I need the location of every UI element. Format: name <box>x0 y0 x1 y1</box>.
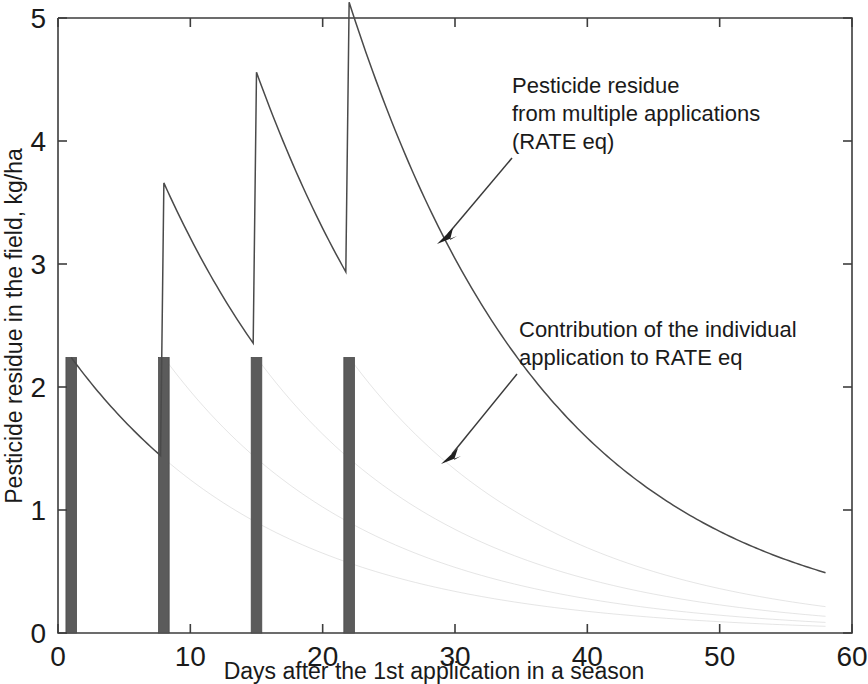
annotation-multiple-applications: Pesticide residue from multiple applicat… <box>437 73 760 244</box>
y-tick-label: 0 <box>30 618 46 649</box>
x-tick-label: 10 <box>175 641 206 672</box>
x-tick-label: 50 <box>704 641 735 672</box>
annotation-2-line-1: Contribution of the individual <box>519 317 797 342</box>
chart-figure: 0102030405060 012345 Days after the 1st … <box>0 0 868 684</box>
y-tick-label: 2 <box>30 372 46 403</box>
total-residue-curve <box>71 2 825 572</box>
contribution-curve <box>257 357 826 616</box>
application-bar <box>66 357 77 633</box>
x-axis-title: Days after the 1st application in a seas… <box>224 658 645 684</box>
contribution-curve <box>71 357 825 626</box>
y-tick-label: 1 <box>30 495 46 526</box>
y-tick-label: 4 <box>30 126 46 157</box>
application-bars <box>66 357 354 633</box>
annotation-1-line-3: (RATE eq) <box>512 129 614 154</box>
annotation-1-line-2: from multiple applications <box>512 101 760 126</box>
y-tick-label: 3 <box>30 249 46 280</box>
application-bar <box>159 357 170 633</box>
annotation-2-line-2: application to RATE eq <box>519 345 742 370</box>
application-bar <box>251 357 262 633</box>
application-bar <box>344 357 355 633</box>
contribution-curves <box>71 357 825 626</box>
x-tick-label: 0 <box>50 641 66 672</box>
annotation-individual-contribution: Contribution of the individual applicati… <box>441 317 797 464</box>
y-tick-label: 5 <box>30 3 46 34</box>
pesticide-residue-chart: 0102030405060 012345 Days after the 1st … <box>0 0 868 684</box>
annotation-1-arrow-line <box>448 158 512 234</box>
contribution-curve <box>164 357 826 622</box>
x-tick-label: 60 <box>836 641 867 672</box>
y-axis-title: Pesticide residue in the field, kg/ha <box>1 148 27 504</box>
y-tick-labels: 012345 <box>30 3 46 649</box>
contribution-curve <box>349 357 825 606</box>
annotation-2-arrow-head <box>441 448 461 464</box>
annotation-2-arrow-line <box>452 374 517 454</box>
annotation-1-line-1: Pesticide residue <box>512 73 680 98</box>
